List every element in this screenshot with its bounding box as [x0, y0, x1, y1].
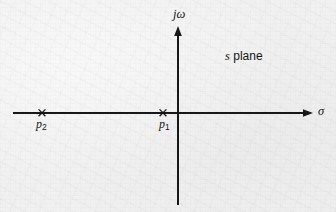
- s-plane-figure: jω σ s plane p1 p2: [0, 0, 336, 212]
- pole-label-p1: p1: [159, 118, 170, 132]
- s-plane-caption: s plane: [225, 50, 263, 63]
- imag-axis-arrowhead: [174, 26, 182, 36]
- real-axis-label: σ: [318, 105, 324, 118]
- pole-label-p1-subscript: 1: [165, 122, 170, 132]
- real-axis-arrowhead: [303, 109, 313, 117]
- pole-label-p2: p2: [36, 118, 47, 132]
- s-plane-plot-canvas: [0, 0, 336, 212]
- pole-label-p2-subscript: 2: [42, 122, 47, 132]
- imag-axis-label: jω: [173, 8, 185, 21]
- s-plane-caption-word-text: plane: [233, 49, 262, 63]
